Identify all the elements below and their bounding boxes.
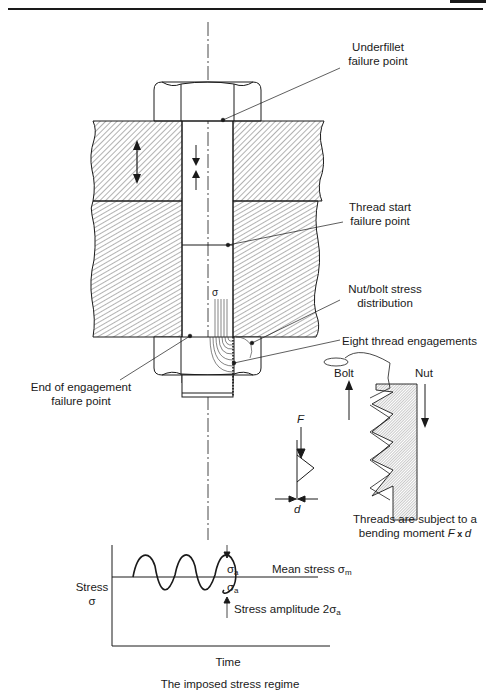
mean-stress-sub: m (345, 568, 352, 577)
stress-time-plot (112, 545, 330, 646)
header-rule (8, 0, 486, 9)
label-force: F (297, 412, 304, 426)
label-thread-start: Thread start failure point (335, 200, 425, 228)
plot-ylabel-line2: σ (74, 594, 110, 608)
amplitude-text: Stress amplitude 2σ (234, 603, 336, 615)
bending-x: x (455, 529, 465, 539)
nut (154, 337, 261, 375)
amplitude-sub: a (336, 608, 340, 617)
label-distance: d (294, 502, 300, 516)
plot-ylabel: Stress σ (74, 580, 110, 608)
plot-ylabel-line1: Stress (74, 580, 110, 594)
label-bending-moment: Threads are subject to a bending moment … (350, 512, 480, 541)
label-thread-start-line1: Thread start (335, 200, 425, 214)
upper-plate (91, 121, 324, 201)
label-underfillet-line2: failure point (333, 54, 423, 68)
label-sigma-distribution: σ (212, 286, 218, 300)
bending-prefix: bending moment (359, 527, 448, 539)
label-underfillet-line1: Underfillet (333, 40, 423, 54)
tooth-force-sketch (275, 427, 318, 502)
bending-d: d (465, 527, 471, 539)
nut-down-arrow-icon (421, 384, 429, 428)
lower-plate (91, 201, 320, 337)
diagram-page: Underfillet failure point Thread start f… (0, 0, 489, 694)
label-end-of-engagement: End of engagement failure point (26, 380, 136, 408)
plot-sigma-a-top: σa (227, 562, 239, 580)
shank-compression-arrows-icon (192, 145, 200, 190)
label-bending-line2: bending moment F x d (350, 526, 480, 541)
label-thread-start-line2: failure point (335, 214, 425, 228)
mean-stress-text: Mean stress σ (272, 563, 345, 575)
label-nut-bolt-stress-line1: Nut/bolt stress (335, 282, 435, 296)
bolt-up-arrow-icon (345, 380, 353, 420)
label-end-of-engagement-line2: failure point (26, 394, 136, 408)
label-bending-line1: Threads are subject to a (350, 512, 480, 526)
label-underfillet: Underfillet failure point (333, 40, 423, 68)
label-nut: Nut (415, 366, 433, 380)
label-eight-thread: Eight thread engagements (342, 334, 477, 348)
sigma-a-top-sub: a (234, 568, 238, 577)
bending-f: F (448, 527, 455, 539)
plot-caption: The imposed stress regime (150, 677, 310, 691)
plot-mean-stress: Mean stress σm (272, 562, 352, 580)
label-nut-bolt-stress-line2: distribution (335, 296, 435, 310)
label-bolt: Bolt (334, 366, 354, 380)
label-end-of-engagement-line1: End of engagement (26, 380, 136, 394)
plot-sigma-a-bottom: σa (227, 580, 239, 598)
sigma-a-bottom-sub: a (234, 586, 238, 595)
plot-xlabel: Time (200, 655, 256, 669)
bolt-head (154, 82, 261, 121)
plot-amplitude: Stress amplitude 2σa (234, 602, 341, 620)
label-nut-bolt-stress: Nut/bolt stress distribution (335, 282, 435, 310)
